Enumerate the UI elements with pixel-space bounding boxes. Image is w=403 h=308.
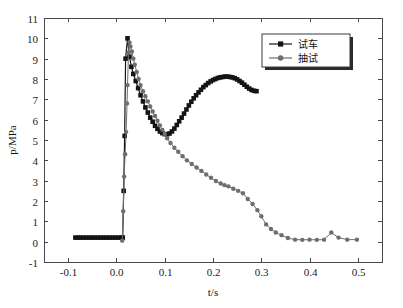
data-point bbox=[179, 115, 184, 120]
y-tick-label: 7 bbox=[33, 94, 39, 106]
data-point bbox=[141, 89, 145, 93]
data-point bbox=[125, 101, 129, 105]
data-point bbox=[153, 114, 157, 118]
data-point bbox=[133, 63, 137, 67]
y-tick-label: 5 bbox=[33, 135, 39, 147]
data-point bbox=[345, 237, 349, 241]
data-point bbox=[148, 115, 153, 120]
x-tick-label: 0.1 bbox=[159, 266, 173, 278]
y-tick-label: 9 bbox=[33, 54, 39, 66]
legend-marker-square bbox=[278, 41, 283, 46]
data-point bbox=[185, 158, 189, 162]
data-point bbox=[190, 162, 194, 166]
x-tick-label: 0.0 bbox=[110, 266, 124, 278]
data-point bbox=[246, 197, 250, 201]
data-point bbox=[146, 110, 151, 115]
data-point bbox=[125, 36, 130, 41]
data-point bbox=[315, 238, 319, 242]
data-point bbox=[131, 56, 135, 60]
data-point bbox=[254, 89, 259, 94]
data-point bbox=[138, 83, 142, 87]
y-tick-label: 1 bbox=[33, 216, 39, 228]
data-point bbox=[172, 146, 176, 150]
x-axis-title: t/s bbox=[208, 286, 218, 298]
legend-label: 试车 bbox=[298, 38, 318, 50]
data-point bbox=[264, 222, 268, 226]
data-point bbox=[150, 119, 155, 124]
data-point bbox=[184, 107, 189, 112]
data-point bbox=[146, 99, 150, 103]
data-point bbox=[143, 105, 148, 110]
data-point bbox=[125, 83, 129, 87]
legend-label: 抽试 bbox=[298, 52, 318, 64]
data-point bbox=[329, 230, 333, 234]
data-point bbox=[241, 191, 245, 195]
data-point bbox=[355, 237, 359, 241]
y-tick-label: 4 bbox=[33, 155, 39, 167]
data-point bbox=[127, 40, 131, 44]
y-tick-label: 8 bbox=[33, 74, 39, 86]
data-point bbox=[214, 179, 218, 183]
y-tick-label: 2 bbox=[33, 196, 39, 208]
data-point bbox=[322, 237, 326, 241]
data-point bbox=[155, 118, 159, 122]
data-point bbox=[204, 172, 208, 176]
data-point bbox=[219, 181, 223, 185]
y-tick-label: 3 bbox=[33, 176, 39, 188]
data-point bbox=[336, 235, 340, 239]
y-tick-label: -1 bbox=[29, 257, 38, 269]
data-point bbox=[148, 104, 152, 108]
data-point bbox=[199, 169, 203, 173]
data-point bbox=[269, 227, 273, 231]
y-tick-label: 10 bbox=[27, 33, 39, 45]
y-axis-title: p/MPa bbox=[6, 125, 18, 154]
data-point bbox=[209, 176, 213, 180]
data-point bbox=[231, 187, 235, 191]
data-point bbox=[130, 49, 134, 53]
x-tick-label: 0.3 bbox=[255, 266, 269, 278]
data-point bbox=[286, 236, 290, 240]
data-point bbox=[236, 189, 240, 193]
data-point bbox=[123, 152, 127, 156]
data-point bbox=[274, 230, 278, 234]
data-point bbox=[194, 165, 198, 169]
data-point bbox=[168, 141, 172, 145]
data-point bbox=[143, 94, 147, 98]
data-point bbox=[300, 238, 304, 242]
x-tick-label: 0.5 bbox=[352, 266, 366, 278]
data-point bbox=[128, 44, 132, 48]
x-tick-label: -0.1 bbox=[60, 266, 77, 278]
chart-container: -0.10.00.10.20.30.40.5 -101234567891011 … bbox=[0, 0, 403, 308]
x-tick-label: 0.2 bbox=[207, 266, 221, 278]
data-point bbox=[121, 209, 125, 213]
data-point bbox=[165, 136, 169, 140]
data-point bbox=[150, 109, 154, 113]
x-tick-label: 0.4 bbox=[304, 266, 318, 278]
data-point bbox=[176, 150, 180, 154]
data-point bbox=[160, 128, 164, 132]
data-point bbox=[136, 77, 140, 81]
data-point bbox=[222, 183, 226, 187]
data-point bbox=[182, 111, 187, 116]
data-point bbox=[141, 99, 146, 104]
data-point bbox=[226, 184, 230, 188]
data-point bbox=[158, 123, 162, 127]
data-point bbox=[163, 132, 167, 136]
data-point bbox=[135, 70, 139, 74]
data-point bbox=[307, 237, 311, 241]
data-point bbox=[279, 233, 283, 237]
y-tick-label: 11 bbox=[27, 13, 38, 25]
data-point bbox=[255, 208, 259, 212]
data-point bbox=[138, 93, 143, 98]
y-tick-label: 0 bbox=[33, 237, 39, 249]
data-point bbox=[250, 202, 254, 206]
data-point bbox=[293, 237, 297, 241]
chart-canvas: -0.10.00.10.20.30.40.5 -101234567891011 … bbox=[0, 0, 403, 308]
data-point bbox=[122, 174, 126, 178]
legend-marker-circle bbox=[278, 55, 284, 61]
data-point bbox=[120, 238, 124, 242]
y-tick-label: 6 bbox=[33, 115, 39, 127]
data-point bbox=[180, 154, 184, 158]
data-point bbox=[259, 214, 263, 218]
chart-legend: 试车抽试 bbox=[262, 34, 353, 70]
